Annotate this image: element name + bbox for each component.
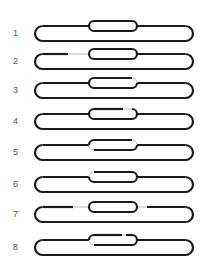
inner-left-upper bbox=[89, 140, 94, 145]
inner-left-upper bbox=[89, 172, 94, 177]
inner-left-lower bbox=[89, 54, 94, 59]
outer-loop bbox=[35, 54, 193, 69]
inner-left-lower bbox=[89, 145, 94, 150]
diagram-row: 3 bbox=[13, 78, 193, 98]
inner-left-lower bbox=[89, 83, 94, 88]
inner-right-upper bbox=[132, 21, 137, 26]
inner-right-lower bbox=[132, 207, 137, 212]
inner-left-upper bbox=[89, 202, 94, 207]
inner-right-upper bbox=[132, 172, 137, 177]
inner-right-upper bbox=[132, 235, 137, 240]
diagram-row: 2 bbox=[13, 49, 193, 69]
row-label: 5 bbox=[13, 147, 18, 157]
diagram-row: 4 bbox=[13, 109, 193, 129]
diagram-row: 6 bbox=[13, 172, 193, 192]
inner-right-lower bbox=[132, 83, 137, 88]
inner-left-lower bbox=[89, 177, 94, 182]
inner-left-upper bbox=[89, 235, 94, 240]
outer-loop bbox=[35, 145, 193, 160]
row-label: 1 bbox=[13, 28, 18, 38]
diagram-row: 8 bbox=[13, 235, 193, 255]
outer-loop bbox=[35, 177, 193, 192]
inner-left-lower bbox=[89, 207, 94, 212]
row-label: 3 bbox=[13, 85, 18, 95]
inner-right-lower bbox=[132, 177, 137, 182]
inner-right-lower bbox=[132, 114, 137, 119]
outer-loop bbox=[35, 240, 193, 255]
outer-loop bbox=[35, 114, 193, 129]
inner-right-lower bbox=[132, 54, 137, 59]
loop-diagram-figure: 12345678 bbox=[0, 0, 208, 268]
row-label: 6 bbox=[13, 179, 18, 189]
inner-right-upper bbox=[132, 78, 137, 83]
row-label: 2 bbox=[13, 56, 18, 66]
inner-left-upper bbox=[89, 49, 94, 54]
inner-right-upper bbox=[132, 202, 137, 207]
inner-left-lower bbox=[89, 114, 94, 119]
outer-loop bbox=[35, 207, 193, 222]
inner-left-upper bbox=[89, 21, 94, 26]
diagram-row: 7 bbox=[13, 202, 193, 222]
diagram-row: 5 bbox=[13, 140, 193, 160]
inner-right-upper bbox=[132, 140, 137, 145]
row-label: 4 bbox=[13, 116, 18, 126]
inner-right-upper bbox=[132, 49, 137, 54]
inner-left-upper bbox=[89, 109, 94, 114]
inner-left-upper bbox=[89, 78, 94, 83]
diagram-row: 1 bbox=[13, 21, 193, 41]
inner-right-lower bbox=[132, 26, 137, 31]
inner-left-lower bbox=[89, 240, 94, 245]
outer-loop bbox=[35, 83, 193, 98]
row-label: 7 bbox=[13, 209, 18, 219]
row-label: 8 bbox=[13, 242, 18, 252]
outer-loop bbox=[35, 26, 193, 41]
inner-right-lower bbox=[132, 240, 137, 245]
inner-right-upper bbox=[132, 109, 137, 114]
inner-right-lower bbox=[132, 145, 137, 150]
inner-left-lower bbox=[89, 26, 94, 31]
